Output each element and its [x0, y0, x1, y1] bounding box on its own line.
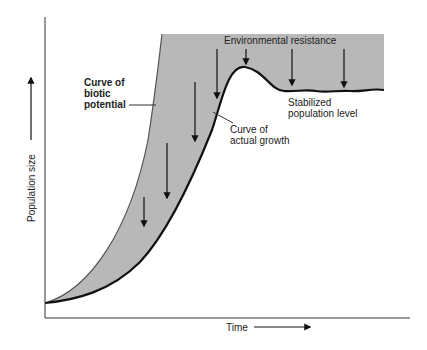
biotic-label-line1: Curve of: [84, 77, 125, 88]
environmental-resistance-region: [45, 34, 384, 303]
x-axis-label: Time: [226, 322, 248, 333]
stabilized-label-line1: Stabilized: [288, 97, 331, 108]
y-axis-label: Population size: [26, 154, 37, 222]
environmental-resistance-label: Environmental resistance: [224, 35, 337, 46]
actual-growth-label-line2: actual growth: [230, 135, 289, 146]
actual-growth-label-line1: Curve of: [230, 124, 268, 135]
population-growth-diagram: Population size Time Curve of biotic pot…: [0, 0, 427, 350]
biotic-label-line3: potential: [84, 99, 126, 110]
biotic-label-line2: biotic: [84, 88, 111, 99]
stabilized-label-line2: population level: [288, 108, 358, 119]
